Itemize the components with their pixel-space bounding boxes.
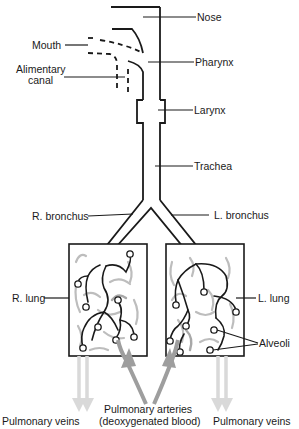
label-trachea: Trachea	[194, 160, 232, 172]
label-pulmonary-veins-right: Pulmonary veins	[213, 415, 291, 427]
mouth-outline	[65, 38, 143, 53]
label-alveoli: Alveoli	[259, 337, 290, 349]
label-l-lung: L. lung	[258, 292, 290, 304]
label-pulmonary-arteries: Pulmonary arteries	[104, 403, 192, 415]
pharynx	[128, 61, 194, 100]
nasal-cavity	[111, 7, 196, 100]
pulmonary-veins-right-arrows	[211, 356, 233, 412]
label-r-bronchus: R. bronchus	[32, 210, 89, 222]
right-lung	[44, 244, 147, 356]
label-deoxygenated-blood: (deoxygenated blood)	[99, 415, 201, 427]
label-r-lung: R. lung	[12, 292, 45, 304]
label-larynx: Larynx	[194, 104, 226, 116]
left-lung	[166, 244, 258, 356]
label-pharynx: Pharynx	[195, 56, 234, 68]
label-pulmonary-veins-left: Pulmonary veins	[2, 415, 80, 427]
larynx	[137, 100, 193, 200]
label-nose: Nose	[197, 11, 222, 23]
label-mouth: Mouth	[32, 39, 61, 51]
pulmonary-veins-left-arrows	[72, 356, 94, 412]
label-l-bronchus: L. bronchus	[214, 209, 269, 221]
respiratory-diagram: Nose Mouth Pharynx Alimentary canal Lary…	[0, 0, 299, 429]
label-canal: canal	[28, 74, 53, 86]
alimentary-canal	[64, 53, 128, 92]
